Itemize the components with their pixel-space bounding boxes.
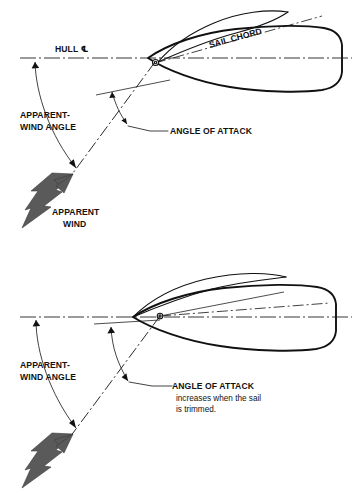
apparent-wind-line-top [70, 62, 155, 177]
sail-chord-line-bottom [160, 303, 330, 316]
angle-of-attack-leader-top [128, 126, 168, 131]
apparent-wind-angle-label-line2-bottom: WIND ANGLE [20, 372, 76, 382]
panel-bottom: ANGLE OF ATTACK increases when the sail … [20, 273, 352, 488]
apparent-wind-angle-label-line2-top: WIND ANGLE [20, 122, 76, 132]
chord-reference-line-bottom [94, 320, 160, 324]
apparent-wind-angle-arrowhead-upper-top [32, 62, 40, 69]
angle-of-attack-note-line2: is trimmed. [176, 405, 216, 414]
apparent-wind-angle-label-line1-top: APPARENT- [20, 110, 70, 120]
angle-of-attack-arrowhead-upper-top [109, 92, 115, 98]
hull-centerline-label: HULL ℄ [55, 44, 89, 54]
angle-of-attack-arrowhead-lower-top [121, 118, 127, 124]
apparent-wind-label-line1-top: APPARENT [52, 207, 100, 217]
figure-canvas: HULL ℄ SAIL CHORD ANGLE OF ATTACK AP [0, 0, 359, 495]
sail-chord-solid-bottom [160, 292, 284, 316]
apparent-wind-angle-arrowhead-upper-bottom [33, 320, 41, 327]
apparent-wind-angle-arrowhead-lower-bottom [69, 419, 76, 428]
apparent-wind-angle-label-line1-bottom: APPARENT- [20, 360, 70, 370]
apparent-wind-line-bottom [70, 316, 160, 437]
angle-of-attack-label-top: ANGLE OF ATTACK [170, 126, 253, 136]
angle-of-attack-note-line1: increases when the sail [176, 394, 261, 403]
angle-of-attack-arrowhead-upper-bottom [107, 327, 115, 333]
angle-of-attack-arc-bottom [111, 327, 128, 381]
apparent-wind-arrow-bottom [22, 433, 73, 488]
chord-reference-line-top [96, 80, 170, 95]
apparent-wind-label-line2-top: WIND [63, 219, 86, 229]
panel-top: HULL ℄ SAIL CHORD ANGLE OF ATTACK AP [20, 11, 352, 229]
angle-of-attack-leader-bottom [129, 382, 172, 386]
angle-of-attack-label-bottom: ANGLE OF ATTACK [172, 381, 255, 391]
sail-leech-bottom [133, 277, 286, 317]
sailing-geometry-figure: HULL ℄ SAIL CHORD ANGLE OF ATTACK AP [0, 0, 359, 495]
